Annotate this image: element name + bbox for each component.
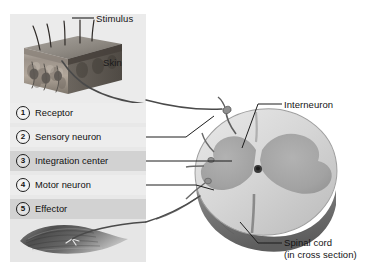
step-item-sensory-neuron[interactable]: 2 Sensory neuron — [10, 127, 146, 147]
step-item-integration-center[interactable]: 3 Integration center — [10, 151, 146, 171]
step-number-badge: 2 — [16, 130, 30, 144]
skin-label: Skin — [103, 57, 122, 68]
step-label: Motor neuron — [35, 180, 91, 190]
step-label: Receptor — [35, 108, 73, 118]
step-item-receptor[interactable]: 1 Receptor — [10, 103, 146, 123]
step-label: Effector — [35, 204, 67, 214]
step-number-badge: 4 — [16, 178, 30, 192]
spinal-cord-label-line2: (in cross section) — [284, 249, 357, 260]
step-item-motor-neuron[interactable]: 4 Motor neuron — [10, 175, 146, 195]
skeletal-muscle-illustration — [10, 219, 146, 262]
step-item-effector[interactable]: 5 Effector — [10, 199, 146, 219]
effector-muscle-panel — [10, 219, 146, 262]
stimulus-label: Stimulus — [96, 13, 133, 24]
spinal-cord-label-line1: Spinal cord — [284, 237, 332, 248]
step-number-badge: 5 — [16, 202, 30, 216]
step-label: Sensory neuron — [35, 132, 101, 142]
figure-canvas: Stimulus Skin 1 Receptor 2 Sensory neuro… — [0, 0, 382, 279]
interneuron-label: Interneuron — [284, 99, 333, 111]
step-number-badge: 1 — [16, 106, 30, 120]
step-label: Integration center — [35, 156, 108, 166]
skin-block-illustration — [10, 14, 146, 103]
step-number-badge: 3 — [16, 154, 30, 168]
skin-illustration-panel — [10, 14, 146, 103]
spinal-cord-label: Spinal cord (in cross section) — [284, 237, 357, 260]
